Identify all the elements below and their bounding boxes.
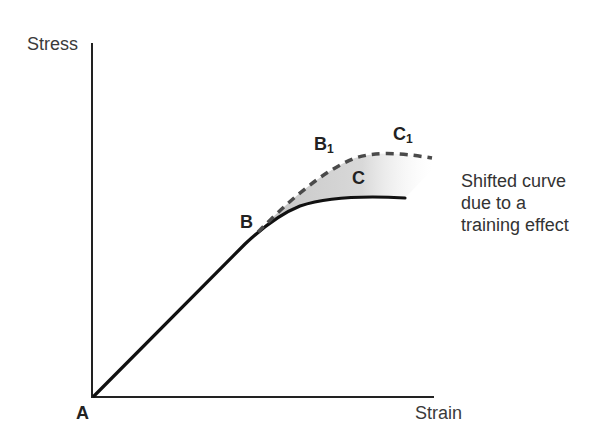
point-b1-label: B1	[314, 134, 334, 156]
annotation-line-3: training effect	[461, 214, 569, 236]
y-axis-label: Stress	[27, 34, 78, 55]
point-c1-subscript: 1	[406, 132, 413, 146]
annotation-line-2: due to a	[461, 192, 569, 214]
point-c-label: C	[352, 168, 365, 189]
point-b-label: B	[240, 212, 253, 233]
point-b1-subscript: 1	[327, 142, 334, 156]
training-effect-shaded-region	[258, 154, 432, 233]
point-b1-letter: B	[314, 134, 327, 154]
shifted-curve-annotation: Shifted curve due to a training effect	[461, 170, 569, 236]
point-c1-label: C1	[393, 124, 413, 146]
point-c1-letter: C	[393, 124, 406, 144]
x-axis-label: Strain	[415, 403, 462, 424]
point-a-label: A	[76, 403, 89, 424]
annotation-line-1: Shifted curve	[461, 170, 569, 192]
